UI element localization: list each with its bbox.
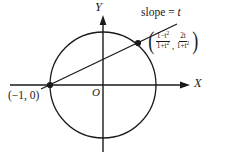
x-den-exponent: 2 <box>166 40 169 46</box>
coordinate-separator: , <box>171 42 176 51</box>
x-coordinate-fraction: 1−t2 1+t2 <box>155 32 170 50</box>
y-coordinate-fraction: 2t 1+t2 <box>175 32 190 50</box>
point-label-minus-one-zero: (−1, 0) <box>8 90 39 102</box>
diagram-canvas <box>0 0 227 158</box>
slope-label-text: slope = <box>141 6 178 18</box>
slope-label: slope = t <box>141 7 181 19</box>
y-den-exponent: 2 <box>186 40 189 46</box>
point-marker-parametrized <box>135 40 141 46</box>
x-axis-label: X <box>194 77 202 90</box>
geometry-figure: Y X O (−1, 0) slope = t ( 1−t2 1+t2 , 2t… <box>0 0 227 158</box>
x-coordinate-denominator: 1+t2 <box>156 42 170 50</box>
origin-label: O <box>92 87 100 98</box>
y-axis-arrowhead <box>100 15 107 25</box>
open-paren: ( <box>148 31 154 52</box>
x-axis-arrowhead <box>180 82 190 89</box>
parametrized-point-coordinates: ( 1−t2 1+t2 , 2t 1+t2 ) <box>147 31 199 52</box>
y-coordinate-denominator: 1+t2 <box>176 42 190 50</box>
point-marker-left <box>47 82 53 88</box>
y-num-base: 2t <box>180 32 186 40</box>
y-axis-label: Y <box>95 1 102 14</box>
x-num-exponent: 2 <box>166 30 169 36</box>
close-paren: ) <box>192 31 198 52</box>
slope-label-variable: t <box>178 6 181 18</box>
